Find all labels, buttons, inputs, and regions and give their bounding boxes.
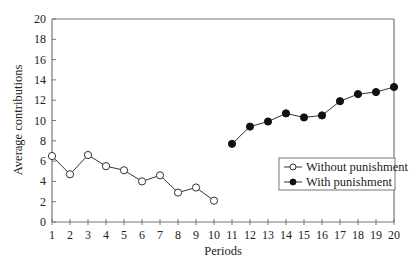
- x-tick-label: 8: [175, 228, 181, 242]
- open-circle-marker-icon: [84, 151, 91, 158]
- filled-circle-marker-icon: [246, 123, 253, 130]
- y-tick-label: 2: [40, 195, 46, 209]
- filled-circle-marker-icon: [264, 118, 271, 125]
- filled-circle-marker-icon: [282, 110, 289, 117]
- plot-frame: [52, 19, 394, 222]
- x-axis-label: Periods: [204, 244, 242, 258]
- filled-circle-marker-icon: [336, 98, 343, 105]
- series-with-punishment: [228, 83, 397, 147]
- open-circle-marker-icon: [210, 197, 217, 204]
- series-without-punishment: [48, 151, 217, 204]
- y-tick-label: 16: [34, 53, 46, 67]
- open-circle-marker-icon: [120, 167, 127, 174]
- x-tick-label: 6: [139, 228, 145, 242]
- filled-circle-marker-icon: [372, 88, 379, 95]
- y-tick-label: 0: [40, 215, 46, 229]
- filled-circle-marker-icon: [228, 140, 235, 147]
- y-tick-label: 20: [34, 12, 46, 26]
- x-tick-label: 17: [334, 228, 346, 242]
- x-tick-label: 15: [298, 228, 310, 242]
- x-tick-label: 18: [352, 228, 364, 242]
- legend-label: Without punishment: [306, 160, 408, 174]
- y-tick-label: 8: [40, 134, 46, 148]
- y-tick-label: 4: [40, 174, 46, 188]
- legend-label: With punishment: [306, 175, 392, 189]
- open-circle-marker-icon: [156, 172, 163, 179]
- x-tick-label: 14: [280, 228, 292, 242]
- x-tick-label: 11: [226, 228, 238, 242]
- x-tick-label: 10: [208, 228, 220, 242]
- filled-circle-marker-icon: [290, 179, 296, 185]
- x-tick-label: 2: [67, 228, 73, 242]
- open-circle-marker-icon: [174, 189, 181, 196]
- y-axis-label: Average contributions: [11, 65, 25, 176]
- open-circle-marker-icon: [138, 178, 145, 185]
- x-tick-label: 12: [244, 228, 256, 242]
- y-tick-label: 14: [34, 73, 46, 87]
- series-line: [52, 155, 214, 201]
- y-tick-label: 10: [34, 114, 46, 128]
- filled-circle-marker-icon: [300, 114, 307, 121]
- y-axis: 02468101214161820: [34, 12, 56, 229]
- x-tick-label: 7: [157, 228, 163, 242]
- open-circle-marker-icon: [102, 163, 109, 170]
- open-circle-marker-icon: [290, 164, 296, 170]
- series-line: [232, 87, 394, 144]
- x-tick-label: 16: [316, 228, 328, 242]
- x-tick-label: 13: [262, 228, 274, 242]
- filled-circle-marker-icon: [354, 91, 361, 98]
- x-tick-label: 1: [49, 228, 55, 242]
- open-circle-marker-icon: [48, 152, 55, 159]
- x-tick-label: 20: [388, 228, 400, 242]
- x-tick-label: 3: [85, 228, 91, 242]
- x-tick-label: 19: [370, 228, 382, 242]
- x-tick-label: 4: [103, 228, 109, 242]
- y-tick-label: 6: [40, 154, 46, 168]
- y-tick-label: 18: [34, 32, 46, 46]
- filled-circle-marker-icon: [318, 112, 325, 119]
- x-tick-label: 5: [121, 228, 127, 242]
- line-chart: 02468101214161820 1234567891011121314151…: [0, 0, 418, 266]
- y-tick-label: 12: [34, 93, 46, 107]
- filled-circle-marker-icon: [390, 83, 397, 90]
- open-circle-marker-icon: [66, 171, 73, 178]
- legend: Without punishment With punishment: [279, 158, 408, 190]
- x-tick-label: 9: [193, 228, 199, 242]
- open-circle-marker-icon: [192, 184, 199, 191]
